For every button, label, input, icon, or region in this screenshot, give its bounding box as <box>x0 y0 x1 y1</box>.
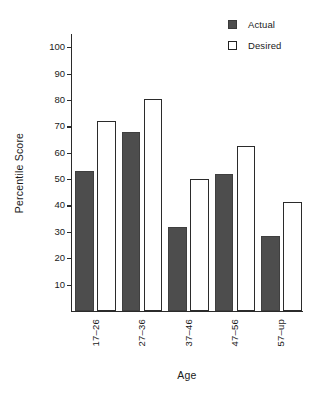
bar-desired-27-36 <box>144 99 163 311</box>
y-tick-label: 50 <box>54 174 65 184</box>
bar-actual-57-up <box>261 236 280 311</box>
x-tick-label: 47–56 <box>230 319 240 346</box>
x-tick-label: 57–up <box>276 319 286 346</box>
y-tick-label: 40 <box>54 201 65 211</box>
y-tick-label: 20 <box>54 253 65 263</box>
bar-actual-37-46 <box>168 227 187 311</box>
y-axis-title: Percentile Score <box>8 34 30 312</box>
bar-actual-17-26 <box>75 171 94 311</box>
y-tick-label: 10 <box>54 280 65 290</box>
x-axis-title: Age <box>71 369 303 381</box>
x-tick-label: 17–26 <box>91 319 101 346</box>
bar-desired-47-56 <box>237 146 256 311</box>
bar-actual-47-56 <box>215 174 234 311</box>
legend-label-actual: Actual <box>248 20 275 30</box>
x-tick-label: 27–36 <box>137 319 147 346</box>
bar-desired-37-46 <box>190 179 209 311</box>
y-tick-label: 90 <box>54 69 65 79</box>
y-tick-label: 30 <box>54 227 65 237</box>
percentile-score-bar-chart: Actual Desired Percentile Score 10203040… <box>0 0 331 398</box>
x-tick-label: 37–46 <box>184 319 194 346</box>
y-axis-title-text: Percentile Score <box>13 133 25 213</box>
x-axis-tick-labels: 17–2627–3637–4647–5657–up <box>71 313 303 365</box>
legend-item-actual: Actual <box>228 16 328 33</box>
bars-layer <box>71 34 303 311</box>
bar-desired-57-up <box>283 202 302 311</box>
filled-square-icon <box>228 20 237 29</box>
y-tick-label: 70 <box>54 122 65 132</box>
bar-desired-17-26 <box>97 121 116 311</box>
plot-area: 102030405060708090100 <box>71 34 303 312</box>
y-tick-label: 60 <box>54 148 65 158</box>
y-tick-label: 100 <box>49 42 65 52</box>
y-tick-label: 80 <box>54 95 65 105</box>
bar-actual-27-36 <box>122 132 141 311</box>
